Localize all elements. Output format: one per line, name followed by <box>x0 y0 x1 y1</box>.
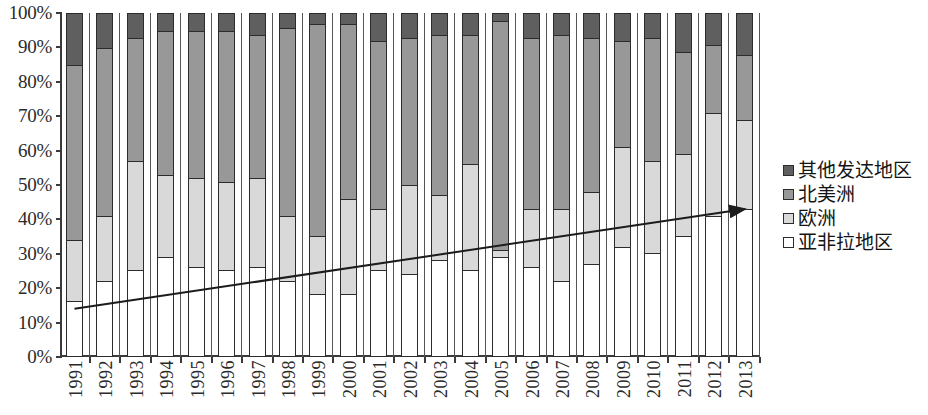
bar-segment <box>706 216 721 356</box>
bar-2012[interactable] <box>705 13 722 357</box>
x-tick-label-2003: 2003 <box>432 360 450 398</box>
y-tick-mark <box>56 115 62 117</box>
x-tick-mark <box>363 357 365 363</box>
bar-segment <box>737 120 752 209</box>
bar-2008[interactable] <box>583 13 600 357</box>
bar-segment <box>524 38 539 209</box>
bar-2004[interactable] <box>462 13 479 357</box>
x-tick-mark <box>241 357 243 363</box>
legend-item-1[interactable]: 北美洲 <box>783 184 912 205</box>
bar-segment <box>524 267 539 356</box>
category-gridline <box>211 13 212 357</box>
bar-segment <box>493 257 508 356</box>
bar-segment <box>554 35 569 209</box>
x-tick-label-1995: 1995 <box>189 360 207 398</box>
stacked-bar-chart: 0%10%20%30%40%50%60%70%80%90%100% 199119… <box>0 0 928 415</box>
x-tick-label-1992: 1992 <box>97 360 115 398</box>
x-tick-mark <box>698 357 700 363</box>
bar-segment <box>676 14 691 52</box>
bar-2000[interactable] <box>340 13 357 357</box>
x-tick-mark <box>728 357 730 363</box>
bar-segment <box>280 216 295 281</box>
bar-segment <box>737 209 752 356</box>
x-tick-mark <box>606 357 608 363</box>
x-tick-mark <box>119 357 121 363</box>
legend-item-3[interactable]: 亚非拉地区 <box>783 232 912 253</box>
bar-2005[interactable] <box>492 13 509 357</box>
legend-item-2[interactable]: 欧洲 <box>783 208 912 229</box>
bar-1995[interactable] <box>188 13 205 357</box>
category-gridline <box>759 13 760 357</box>
x-tick-label-2008: 2008 <box>584 360 602 398</box>
bar-segment <box>584 14 599 38</box>
bar-segment <box>676 154 691 236</box>
y-tick-label: 70% <box>18 106 52 125</box>
legend-swatch-icon <box>783 189 794 200</box>
bar-segment <box>189 14 204 31</box>
bar-segment <box>554 281 569 356</box>
category-gridline <box>728 13 729 357</box>
category-gridline <box>485 13 486 357</box>
x-tick-label-2009: 2009 <box>615 360 633 398</box>
y-tick-mark <box>56 356 62 358</box>
bar-2013[interactable] <box>736 13 753 357</box>
y-tick-mark <box>56 46 62 48</box>
category-gridline <box>119 13 120 357</box>
bar-segment <box>158 175 173 257</box>
bar-segment <box>737 14 752 55</box>
bar-1992[interactable] <box>96 13 113 357</box>
bar-segment <box>615 41 630 147</box>
bar-1999[interactable] <box>309 13 326 357</box>
bar-1998[interactable] <box>279 13 296 357</box>
bar-1991[interactable] <box>66 13 83 357</box>
bar-segment <box>67 65 82 239</box>
category-gridline <box>332 13 333 357</box>
bar-1997[interactable] <box>249 13 266 357</box>
y-tick-label: 90% <box>18 37 52 56</box>
bar-segment <box>371 41 386 209</box>
legend-label: 欧洲 <box>798 208 836 229</box>
bar-segment <box>493 250 508 257</box>
x-tick-mark <box>576 357 578 363</box>
bar-segment <box>554 14 569 35</box>
bar-segment <box>97 281 112 356</box>
y-tick-mark <box>56 253 62 255</box>
category-gridline <box>150 13 151 357</box>
x-tick-label-1998: 1998 <box>280 360 298 398</box>
category-gridline <box>698 13 699 357</box>
x-tick-mark <box>424 357 426 363</box>
bar-segment <box>737 55 752 120</box>
bar-segment <box>128 270 143 356</box>
bar-segment <box>158 14 173 31</box>
bar-segment <box>615 14 630 41</box>
x-tick-mark <box>89 357 91 363</box>
x-tick-label-2012: 2012 <box>706 360 724 398</box>
bar-2011[interactable] <box>675 13 692 357</box>
bar-segment <box>341 294 356 356</box>
bar-1996[interactable] <box>218 13 235 357</box>
legend-item-0[interactable]: 其他发达地区 <box>783 160 912 181</box>
bar-1994[interactable] <box>157 13 174 357</box>
bar-segment <box>463 164 478 270</box>
x-tick-mark <box>180 357 182 363</box>
bar-segment <box>158 31 173 175</box>
bar-2003[interactable] <box>431 13 448 357</box>
bar-segment <box>158 257 173 356</box>
x-tick-label-1991: 1991 <box>67 360 85 398</box>
bar-2002[interactable] <box>401 13 418 357</box>
bar-2010[interactable] <box>644 13 661 357</box>
bar-2007[interactable] <box>553 13 570 357</box>
legend-swatch-icon <box>783 165 794 176</box>
y-tick-mark <box>56 184 62 186</box>
bar-1993[interactable] <box>127 13 144 357</box>
bar-2006[interactable] <box>523 13 540 357</box>
bar-segment <box>189 178 204 267</box>
bar-segment <box>189 31 204 178</box>
bar-segment <box>128 161 143 270</box>
bar-2009[interactable] <box>614 13 631 357</box>
bar-segment <box>219 31 234 181</box>
category-gridline <box>637 13 638 357</box>
bar-2001[interactable] <box>370 13 387 357</box>
x-tick-mark <box>272 357 274 363</box>
x-tick-label-2004: 2004 <box>463 360 481 398</box>
